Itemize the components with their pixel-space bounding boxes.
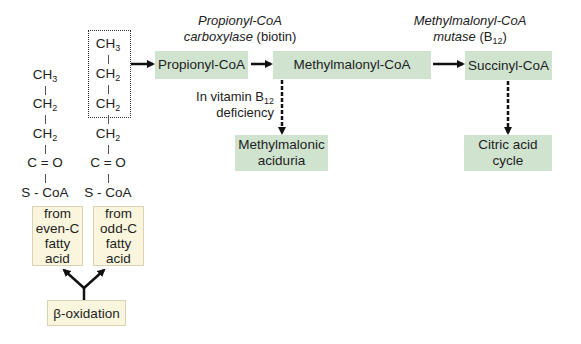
arrows-layer [0,0,581,344]
arrow-to-even-c [64,270,84,288]
arrow-to-odd-c [84,270,104,288]
